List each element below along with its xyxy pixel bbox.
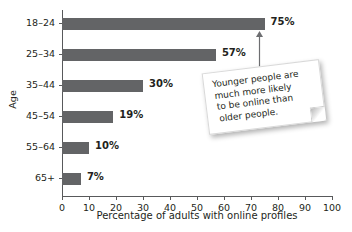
bar xyxy=(62,111,113,123)
bar-chart: Age 18–2475%25–3457%35–4430%45–5419%55–6… xyxy=(0,0,352,232)
x-axis-tick xyxy=(332,196,333,200)
bar xyxy=(62,173,81,185)
bar xyxy=(62,142,89,154)
x-axis-tick xyxy=(89,196,90,200)
bar-value-label: 7% xyxy=(87,171,104,182)
bar-value-label: 57% xyxy=(222,47,246,58)
bar-row: 55–6410% xyxy=(62,142,332,154)
bar-row: 18–2475% xyxy=(62,18,332,30)
up-arrow-icon xyxy=(255,30,264,68)
x-axis-tick xyxy=(170,196,171,200)
bar xyxy=(62,80,143,92)
bar xyxy=(62,49,216,61)
x-axis-tick xyxy=(62,196,63,200)
bar xyxy=(62,18,265,30)
category-label: 18–24 xyxy=(26,17,55,28)
bar-value-label: 30% xyxy=(149,78,173,89)
bar-value-label: 19% xyxy=(119,109,143,120)
category-label: 65+ xyxy=(35,172,55,183)
category-label: 35–44 xyxy=(26,79,55,90)
y-axis-line xyxy=(62,10,63,196)
x-axis-tick xyxy=(143,196,144,200)
bar-row: 65+7% xyxy=(62,173,332,185)
category-label: 25–34 xyxy=(26,48,55,59)
page-curl-corner xyxy=(310,106,327,123)
y-axis-title: Age xyxy=(7,80,18,120)
x-axis-tick xyxy=(278,196,279,200)
x-axis-tick xyxy=(224,196,225,200)
bar-row: 25–3457% xyxy=(62,49,332,61)
x-axis-tick xyxy=(305,196,306,200)
x-axis-tick xyxy=(116,196,117,200)
callout-note-text: Younger people aremuch more likelyto be … xyxy=(211,67,318,125)
bar-value-label: 10% xyxy=(95,140,119,151)
x-axis-tick xyxy=(251,196,252,200)
category-label: 45–54 xyxy=(26,110,55,121)
x-axis-title: Percentage of adults with online profile… xyxy=(62,210,332,221)
x-axis-tick xyxy=(197,196,198,200)
bar-value-label: 75% xyxy=(271,16,295,27)
category-label: 55–64 xyxy=(26,141,55,152)
